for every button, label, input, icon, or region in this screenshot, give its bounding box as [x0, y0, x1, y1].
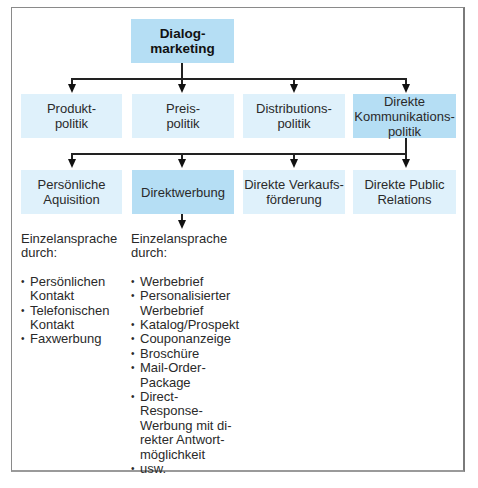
label-line: Direktwerbung	[141, 185, 225, 200]
connector-level1-horizontal	[71, 78, 406, 80]
item-line: Mail-Order-	[140, 361, 241, 375]
box-direkte-kommunikationspolitik: Direkte Kommunikations- politik	[353, 94, 456, 138]
label-line: Direkte Public	[364, 177, 444, 192]
item-line: Kontakt	[30, 318, 126, 332]
label-line: politik	[166, 116, 199, 131]
details-list: Persönlichen Kontakt Telefonischen Konta…	[21, 275, 126, 347]
item-line: Broschüre	[140, 347, 241, 361]
label-line: förderung	[266, 192, 322, 207]
list-item: Broschüre	[131, 347, 241, 361]
arrow-down-icon	[290, 84, 298, 93]
label-line: Aquisition	[43, 192, 99, 207]
item-line: Faxwerbung	[30, 332, 126, 346]
item-line: möglichkeit	[140, 448, 241, 462]
list-item: Couponanzeige	[131, 332, 241, 346]
list-item: Werbebrief	[131, 275, 241, 289]
item-line: Werbung mit di-	[140, 419, 241, 433]
arrow-down-icon	[402, 84, 410, 93]
item-line: Werbebrief	[140, 275, 241, 289]
item-line: Katalog/Prospekt	[140, 318, 241, 332]
list-item: Telefonischen Kontakt	[21, 304, 126, 333]
item-line: rekter Antwort-	[140, 433, 241, 447]
intro-line: durch:	[21, 246, 126, 260]
arrow-down-icon	[68, 159, 76, 168]
label-line: Preis-	[166, 101, 200, 116]
item-line: Werbebrief	[140, 304, 241, 318]
label-line: Relations	[377, 192, 431, 207]
box-direktwerbung: Direktwerbung	[132, 170, 234, 214]
arrow-down-icon	[178, 220, 186, 229]
list-item: Personalisierter Werbebrief	[131, 289, 241, 318]
item-line: Personalisierter	[140, 289, 241, 303]
root-box-dialogmarketing: Dialog- marketing	[131, 19, 234, 63]
details-direktwerbung: Einzelansprache durch: Werbebrief Person…	[131, 232, 241, 477]
label-line: Direkte Verkaufs-	[244, 177, 344, 192]
intro-line: durch:	[131, 246, 241, 260]
connector-kommunikation-down	[405, 138, 407, 154]
arrow-down-icon	[290, 159, 298, 168]
label-line: Persönliche	[38, 177, 106, 192]
label-line: Kommunikations-	[354, 109, 454, 124]
details-list: Werbebrief Personalisierter Werbebrief K…	[131, 275, 241, 477]
arrow-down-icon	[178, 84, 186, 93]
arrow-down-icon	[178, 159, 186, 168]
list-item: Mail-Order- Package	[131, 361, 241, 390]
connector-level2-horizontal	[71, 153, 406, 155]
label-line: politik	[55, 116, 88, 131]
list-item: Faxwerbung	[21, 332, 126, 346]
list-item: Katalog/Prospekt	[131, 318, 241, 332]
details-persoenliche-aquisition: Einzelansprache durch: Persönlichen Kont…	[21, 232, 126, 347]
item-line: usw.	[140, 462, 241, 476]
box-produktpolitik: Produkt- politik	[21, 94, 122, 138]
root-label-line2: marketing	[150, 41, 215, 56]
box-preispolitik: Preis- politik	[132, 94, 234, 138]
list-item: usw.	[131, 462, 241, 476]
item-line: Direct-Response-	[140, 390, 241, 419]
label-line: Direkte	[384, 94, 425, 109]
details-intro: Einzelansprache durch:	[131, 232, 241, 261]
item-line: Package	[140, 376, 241, 390]
item-line: Kontakt	[30, 289, 126, 303]
list-item: Persönlichen Kontakt	[21, 275, 126, 304]
details-intro: Einzelansprache durch:	[21, 232, 126, 261]
label-line: politik	[277, 116, 310, 131]
box-direkte-public-relations: Direkte Public Relations	[353, 170, 456, 214]
label-line: Distributions-	[256, 101, 332, 116]
intro-line: Einzelansprache	[21, 232, 126, 246]
box-persoenliche-aquisition: Persönliche Aquisition	[21, 170, 122, 214]
arrow-down-icon	[68, 84, 76, 93]
box-distributionspolitik: Distributions- politik	[243, 94, 345, 138]
intro-line: Einzelansprache	[131, 232, 241, 246]
label-line: politik	[388, 124, 421, 139]
item-line: Couponanzeige	[140, 332, 241, 346]
arrow-down-icon	[402, 159, 410, 168]
item-line: Telefonischen	[30, 304, 126, 318]
item-line: Persönlichen	[30, 275, 126, 289]
connector-root-down	[181, 63, 183, 79]
box-direkte-verkaufsfoerderung: Direkte Verkaufs- förderung	[243, 170, 345, 214]
list-item: Direct-Response- Werbung mit di- rekter …	[131, 390, 241, 462]
label-line: Produkt-	[47, 101, 96, 116]
root-label-line1: Dialog-	[160, 26, 206, 41]
